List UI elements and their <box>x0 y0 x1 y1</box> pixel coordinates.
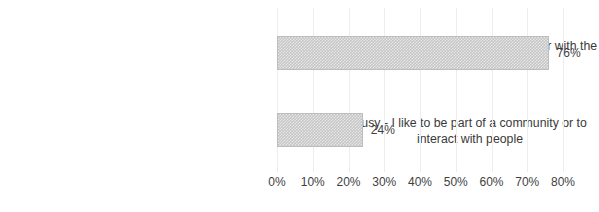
gridline-20 <box>349 8 350 172</box>
bar-secluded <box>277 36 549 70</box>
gridline-0 <box>277 8 278 172</box>
plot-area: 76% 24% <box>277 8 563 172</box>
xtick-label-10: 10% <box>293 176 333 188</box>
gridline-60 <box>492 8 493 172</box>
gridline-80 <box>563 8 564 172</box>
xtick-label-50: 50% <box>436 176 476 188</box>
xtick-label-80: 80% <box>543 176 583 188</box>
bar-chart: Secluded - I want to relax by myself or … <box>0 0 599 212</box>
gridline-10 <box>313 8 314 172</box>
gridline-30 <box>384 8 385 172</box>
gridline-70 <box>527 8 528 172</box>
xtick-label-30: 30% <box>364 176 404 188</box>
bar-busy <box>277 113 363 147</box>
xtick-label-20: 20% <box>329 176 369 188</box>
xtick-label-70: 70% <box>507 176 547 188</box>
xtick-label-0: 0% <box>257 176 297 188</box>
xtick-label-40: 40% <box>400 176 440 188</box>
gridline-50 <box>456 8 457 172</box>
gridline-40 <box>420 8 421 172</box>
xtick-label-60: 60% <box>472 176 512 188</box>
bar-value-busy: 24% <box>371 124 395 136</box>
bar-value-secluded: 76% <box>557 47 581 59</box>
